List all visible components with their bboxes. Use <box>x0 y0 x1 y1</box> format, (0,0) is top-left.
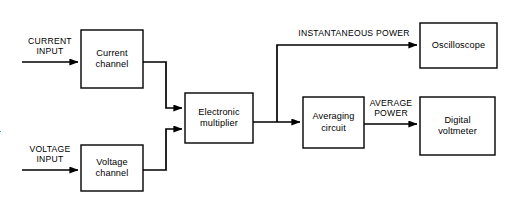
block-electronic-multiplier <box>185 93 253 143</box>
voltage-input-line-1: VOLTAGE <box>20 144 80 154</box>
block-voltage-channel <box>81 145 143 191</box>
average-power-line-2: POWER <box>366 108 416 118</box>
block-diagram-canvas: Current channel Voltage channel Electron… <box>0 0 505 210</box>
wire-voltage-to-multiplier <box>143 129 182 170</box>
diagram-svg <box>0 0 505 210</box>
block-averaging-circuit <box>303 97 364 148</box>
block-digital-voltmeter <box>420 97 495 155</box>
current-input-line-1: CURRENT <box>20 36 80 46</box>
label-instantaneous-power: INSTANTANEOUS POWER <box>289 28 419 38</box>
label-average-power: AVERAGE POWER <box>366 98 416 119</box>
label-current-input: CURRENT INPUT <box>20 36 80 57</box>
block-oscilloscope <box>420 23 497 68</box>
clipped-edge-text-fragment: r <box>0 128 1 138</box>
wire-current-to-multiplier <box>143 62 182 108</box>
average-power-line-1: AVERAGE <box>366 98 416 108</box>
block-current-channel <box>81 30 143 88</box>
voltage-input-line-2: INPUT <box>20 154 80 164</box>
label-voltage-input: VOLTAGE INPUT <box>20 144 80 165</box>
current-input-line-2: INPUT <box>20 46 80 56</box>
